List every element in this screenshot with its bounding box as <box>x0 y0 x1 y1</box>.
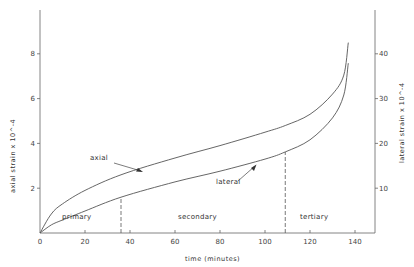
y-ticks-right: 10203040 <box>375 50 388 192</box>
right-y-axis-title: lateral strain x 10^-4 <box>398 82 406 163</box>
secondary-label: secondary <box>178 213 217 221</box>
creep-strain-chart: 020406080100120140 2468 10203040 primary… <box>0 0 414 267</box>
x-tick-label: 140 <box>348 238 361 246</box>
axes <box>40 10 375 233</box>
y-ticks-left: 2468 <box>31 50 40 192</box>
y-tick-right-label: 20 <box>379 140 388 148</box>
y-tick-label: 4 <box>31 140 36 148</box>
lateral-label: lateral <box>216 178 241 186</box>
lateral-strain-curve <box>40 63 348 233</box>
x-tick-label: 80 <box>216 238 225 246</box>
lateral-arrowhead-icon <box>251 165 257 172</box>
tertiary-label: tertiary <box>300 213 328 221</box>
left-y-axis-title: axial strain x 10^-4 <box>9 119 17 193</box>
y-tick-label: 6 <box>31 95 36 103</box>
x-tick-label: 0 <box>38 238 42 246</box>
x-tick-label: 120 <box>303 238 316 246</box>
x-ticks: 020406080100120140 <box>38 230 362 246</box>
y-tick-label: 8 <box>31 50 35 58</box>
y-tick-label: 2 <box>31 185 35 193</box>
x-axis-title: time (minutes) <box>185 255 240 263</box>
x-tick-label: 100 <box>258 238 271 246</box>
x-tick-label: 60 <box>171 238 180 246</box>
axial-strain-curve <box>40 43 348 233</box>
y-tick-right-label: 40 <box>379 50 388 58</box>
x-tick-label: 20 <box>81 238 90 246</box>
primary-label: primary <box>62 213 92 221</box>
axial-leader-arrow <box>114 163 141 171</box>
x-tick-label: 40 <box>126 238 135 246</box>
axial-label: axial <box>90 154 108 162</box>
y-tick-right-label: 10 <box>379 185 388 193</box>
y-tick-right-label: 30 <box>379 95 388 103</box>
